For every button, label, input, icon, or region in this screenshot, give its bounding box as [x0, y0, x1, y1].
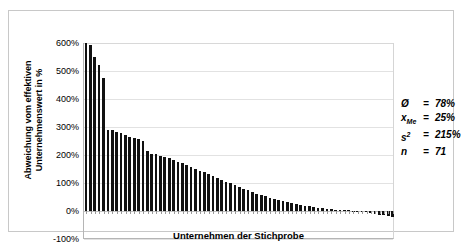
x-axis-tick	[331, 211, 332, 214]
x-axis-tick	[349, 211, 350, 214]
x-axis-tick	[244, 211, 245, 214]
bar	[194, 169, 197, 211]
statistics-symbol: s2	[401, 128, 423, 145]
x-axis-tick	[340, 211, 341, 214]
statistics-value: 25%	[435, 111, 455, 129]
x-axis-tick	[353, 211, 354, 214]
statistics-equals: =	[423, 128, 435, 145]
y-tick-label: 100%	[39, 178, 79, 188]
x-axis-tick	[134, 211, 135, 214]
bar	[199, 171, 202, 211]
x-axis-tick	[161, 211, 162, 214]
statistics-subscript: Me	[407, 118, 417, 125]
statistics-box: Ø=78%xMe=25%s2=215%n=71	[401, 97, 461, 158]
bar	[159, 156, 162, 211]
bar	[242, 189, 245, 211]
x-axis-tick	[393, 211, 394, 214]
bar	[220, 180, 223, 211]
x-axis-tick	[362, 211, 363, 214]
x-axis-tick	[367, 211, 368, 214]
x-axis-tick	[121, 211, 122, 214]
x-axis-tick	[292, 211, 293, 214]
y-tick-label: -100%	[39, 234, 79, 243]
bar	[177, 162, 180, 211]
y-tick-label: 500%	[39, 66, 79, 76]
statistics-row: n=71	[401, 145, 461, 159]
x-axis-tick	[196, 211, 197, 214]
x-axis-tick	[156, 211, 157, 214]
statistics-equals: =	[423, 97, 435, 111]
x-axis-tick	[283, 211, 284, 214]
x-axis-tick	[288, 211, 289, 214]
y-axis-title-line1: Abweichung vom effektiven	[23, 60, 33, 179]
bar	[93, 57, 96, 211]
y-tick-label: 300%	[39, 122, 79, 132]
x-axis-tick	[139, 211, 140, 214]
x-axis-tick	[375, 211, 376, 214]
bar	[142, 141, 145, 211]
x-axis-tick	[95, 211, 96, 214]
x-axis-tick	[209, 211, 210, 214]
bar	[107, 130, 110, 211]
bar	[273, 199, 276, 211]
bar	[295, 204, 298, 211]
y-tick-label: 400%	[39, 94, 79, 104]
x-axis-tick	[174, 211, 175, 214]
x-axis-tick	[248, 211, 249, 214]
x-axis-tick	[126, 211, 127, 214]
bar	[124, 135, 127, 211]
x-axis-tick	[380, 211, 381, 214]
statistics-equals: =	[423, 145, 435, 159]
bar	[264, 196, 267, 211]
statistics-row: xMe=25%	[401, 111, 461, 129]
x-axis-tick	[169, 211, 170, 214]
bar	[277, 200, 280, 211]
bar	[290, 203, 293, 211]
y-tick-label: 600%	[39, 38, 79, 48]
x-axis-tick	[148, 211, 149, 214]
bar	[172, 160, 175, 211]
bar-series	[84, 43, 393, 238]
x-axis-tick	[384, 211, 385, 214]
statistics-row: s2=215%	[401, 128, 461, 145]
bar	[234, 185, 237, 211]
x-axis-tick	[152, 211, 153, 214]
x-axis-tick	[191, 211, 192, 214]
bar	[212, 176, 215, 211]
bar	[181, 163, 184, 211]
x-axis-tick	[143, 211, 144, 214]
x-axis-tick	[261, 211, 262, 214]
statistics-symbol: xMe	[401, 111, 423, 129]
bar	[120, 133, 123, 211]
bar	[247, 190, 250, 211]
y-tick-label: 0%	[39, 206, 79, 216]
bar	[115, 132, 118, 211]
bar	[89, 45, 92, 211]
bar	[286, 202, 289, 211]
x-axis-tick	[358, 211, 359, 214]
x-axis-tick	[301, 211, 302, 214]
bar	[203, 172, 206, 211]
x-axis-title: Unternehmen der Stichprobe	[83, 230, 394, 241]
bar	[102, 78, 105, 211]
x-axis-tick	[345, 211, 346, 214]
bar	[229, 183, 232, 211]
bar	[133, 138, 136, 211]
statistics-value: 215%	[435, 128, 461, 145]
bar	[155, 154, 158, 211]
bar	[282, 201, 285, 211]
x-axis-tick	[204, 211, 205, 214]
x-axis-tick	[108, 211, 109, 214]
bar	[207, 174, 210, 211]
x-axis-tick	[296, 211, 297, 214]
x-axis-tick	[183, 211, 184, 214]
x-axis-tick	[240, 211, 241, 214]
x-axis-tick	[305, 211, 306, 214]
bar	[150, 154, 153, 211]
x-axis-tick	[178, 211, 179, 214]
y-axis-tick-labels: 600%500%400%300%200%100%0%-100%	[37, 43, 79, 239]
statistics-value: 71	[435, 145, 446, 159]
statistics-equals: =	[423, 111, 435, 129]
x-axis-tick	[388, 211, 389, 214]
bar	[163, 157, 166, 211]
